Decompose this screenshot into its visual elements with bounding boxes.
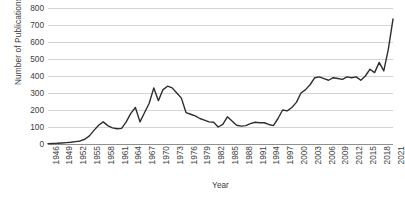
x-tick-label-1988: 1988 [245,146,254,164]
y-tick-label-800: 800 [16,4,44,12]
x-tick-label-1955: 1955 [93,146,102,164]
x-tick-label-1949: 1949 [65,146,74,164]
series-polyline [48,19,393,144]
x-tick-label-1964: 1964 [134,146,143,164]
y-tick-label-500: 500 [16,55,44,63]
x-tick-label-1979: 1979 [203,146,212,164]
x-tick-label-2018: 2018 [383,146,392,164]
x-tick-label-1982: 1982 [217,146,226,164]
y-tick-label-700: 700 [16,21,44,29]
x-tick-label-1994: 1994 [272,146,281,164]
plot-area [48,8,393,144]
y-axis-tick-labels: 8007006005004003002001000 [16,8,44,144]
y-tick-label-300: 300 [16,89,44,97]
series-line-publications [48,8,393,144]
x-tick-label-1973: 1973 [176,146,185,164]
y-tick-label-600: 600 [16,38,44,46]
x-tick-label-1952: 1952 [79,146,88,164]
x-axis-title: Year [48,180,393,190]
x-tick-label-2000: 2000 [300,146,309,164]
x-tick-label-1961: 1961 [121,146,130,164]
x-tick-label-2021: 2021 [397,146,405,164]
x-tick-label-2003: 2003 [314,146,323,164]
x-tick-label-1991: 1991 [259,146,268,164]
x-tick-label-1976: 1976 [190,146,199,164]
y-tick-label-100: 100 [16,123,44,131]
x-tick-label-1967: 1967 [148,146,157,164]
x-tick-label-1985: 1985 [231,146,240,164]
x-tick-label-2006: 2006 [328,146,337,164]
y-tick-label-200: 200 [16,106,44,114]
x-tick-label-1958: 1958 [107,146,116,164]
y-tick-label-400: 400 [16,72,44,80]
x-tick-label-2009: 2009 [341,146,350,164]
y-tick-label-0: 0 [16,140,44,148]
publications-line-chart: Number of Publications 80070060050040030… [0,0,405,199]
x-tick-label-2012: 2012 [355,146,364,164]
x-tick-label-1997: 1997 [286,146,295,164]
x-tick-label-1970: 1970 [162,146,171,164]
x-axis-tick-labels: 1946194919521955195819611964196719701973… [48,146,393,176]
gridline-0 [48,144,393,145]
x-tick-label-1946: 1946 [52,146,61,164]
x-tick-label-2015: 2015 [369,146,378,164]
